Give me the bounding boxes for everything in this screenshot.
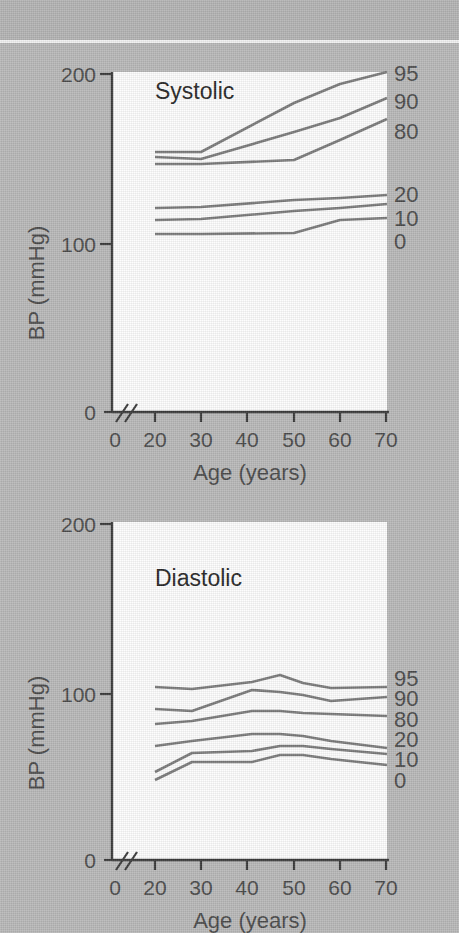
diastolic-xlabel-60: 60 — [328, 876, 351, 899]
systolic-xlabel-50: 50 — [282, 428, 305, 451]
systolic-ylabel-200: 200 — [61, 63, 96, 86]
diastolic-chart-panel: 200 100 0 0 20 30 40 50 60 70 BP (mmHg) … — [0, 490, 459, 933]
diastolic-ylabel-100: 100 — [61, 683, 96, 706]
diastolic-xlabel-40: 40 — [235, 876, 258, 899]
systolic-ylabel-0: 0 — [84, 401, 96, 424]
systolic-right-label-20: 20 — [394, 182, 418, 207]
systolic-xlabel-70: 70 — [374, 428, 397, 451]
diastolic-xlabel-20: 20 — [143, 876, 166, 899]
diastolic-ylabel-0: 0 — [84, 849, 96, 872]
systolic-right-label-0: 0 — [394, 229, 406, 254]
systolic-y-axis-title: BP (mmHg) — [24, 226, 49, 341]
diastolic-ylabel-200: 200 — [61, 513, 96, 536]
diastolic-xlabel-30: 30 — [189, 876, 212, 899]
systolic-panel-title: Systolic — [155, 78, 234, 104]
diastolic-y-axis-title: BP (mmHg) — [24, 676, 49, 791]
diastolic-panel-title: Diastolic — [155, 565, 242, 591]
diastolic-right-label-0: 0 — [394, 768, 406, 793]
systolic-xlabel-0: 0 — [109, 428, 121, 451]
diastolic-x-axis-title: Age (years) — [193, 908, 307, 933]
systolic-chart-svg: 200 100 0 0 20 30 40 50 60 70 BP (mmHg) … — [0, 43, 459, 490]
systolic-xlabel-30: 30 — [189, 428, 212, 451]
systolic-x-axis-title: Age (years) — [193, 460, 307, 485]
systolic-right-label-95: 95 — [394, 61, 418, 86]
systolic-right-label-10: 10 — [394, 206, 418, 231]
systolic-chart-panel: 200 100 0 0 20 30 40 50 60 70 BP (mmHg) … — [0, 43, 459, 490]
diastolic-chart-svg: 200 100 0 0 20 30 40 50 60 70 BP (mmHg) … — [0, 490, 459, 933]
systolic-plot-area — [112, 72, 387, 412]
systolic-xlabel-20: 20 — [143, 428, 166, 451]
page-top-band — [0, 0, 459, 40]
systolic-ylabel-100: 100 — [61, 233, 96, 256]
systolic-right-label-80: 80 — [394, 119, 418, 144]
diastolic-xlabel-50: 50 — [282, 876, 305, 899]
systolic-right-label-90: 90 — [394, 89, 418, 114]
diastolic-xlabel-0: 0 — [109, 876, 121, 899]
diastolic-xlabel-70: 70 — [374, 876, 397, 899]
systolic-chart-canvas: 200 100 0 0 20 30 40 50 60 70 BP (mmHg) … — [0, 43, 459, 490]
systolic-xlabel-60: 60 — [328, 428, 351, 451]
systolic-xlabel-40: 40 — [235, 428, 258, 451]
diastolic-chart-canvas: 200 100 0 0 20 30 40 50 60 70 BP (mmHg) … — [0, 490, 459, 933]
